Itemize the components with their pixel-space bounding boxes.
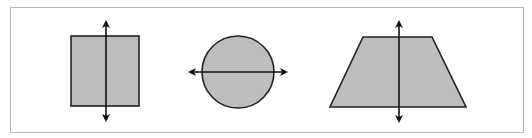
square-shape-group	[71, 22, 139, 120]
trapezoid-shape-group	[330, 22, 466, 121]
circle-shape-group	[190, 36, 286, 108]
trapezoid-shape	[330, 37, 466, 107]
symmetry-diagram	[0, 0, 532, 138]
square-shape	[71, 36, 139, 106]
